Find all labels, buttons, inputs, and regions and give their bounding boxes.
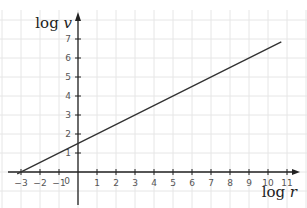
data-line — [17, 42, 281, 174]
x-tick-label: −3 — [14, 178, 27, 188]
x-tick-label: 5 — [170, 178, 176, 188]
y-axis-arrow-icon — [75, 12, 81, 21]
origin-label: 0 — [64, 176, 70, 186]
chart: −3−2−1123456789101112345670log vlog r — [0, 0, 307, 208]
x-tick-label: −2 — [33, 178, 46, 188]
x-tick-label: 6 — [189, 178, 195, 188]
x-axis-arrow-icon — [292, 169, 300, 175]
x-tick-label: 9 — [246, 178, 252, 188]
y-tick-label: 7 — [65, 34, 71, 44]
x-tick-label: 1 — [94, 178, 100, 188]
y-axis-label: log v — [35, 14, 72, 32]
x-axis-label: log r — [262, 183, 298, 201]
x-tick-label: 4 — [151, 178, 157, 188]
y-tick-label: 2 — [65, 129, 71, 139]
y-tick-label: 3 — [65, 110, 71, 120]
y-tick-label: 6 — [65, 53, 71, 63]
x-tick-label: 2 — [113, 178, 119, 188]
x-tick-label: 3 — [132, 178, 138, 188]
x-tick-label: 7 — [208, 178, 214, 188]
x-tick-label: 8 — [227, 178, 233, 188]
y-tick-label: 5 — [65, 72, 71, 82]
y-tick-label: 4 — [65, 91, 71, 101]
